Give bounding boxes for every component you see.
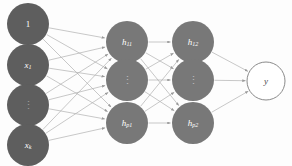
node-input-dots[interactable]: ⋮ [7,84,49,126]
node-hidden1-hp1[interactable]: hp1 [106,102,148,144]
node-hidden2-hp2[interactable]: hp2 [172,102,214,144]
neural-network-canvas: 1x1⋮xkh11⋮hp1h12⋮hp2y [0,0,292,166]
node-circle-hidden1-h11 [106,21,148,63]
node-circle-input-dots [7,84,49,126]
node-circle-output-y [247,62,285,100]
neural-network-diagram: 1x1⋮xkh11⋮hp1h12⋮hp2y [0,0,292,166]
connection-edge [146,53,174,69]
node-hidden2-h12[interactable]: h12 [172,21,214,63]
node-input-bias[interactable]: 1 [7,3,49,45]
node-input-x1[interactable]: x1 [7,44,49,86]
node-circle-input-x1 [7,44,49,86]
node-circle-input-xk [7,124,49,166]
node-hidden2-dots[interactable]: ⋮ [172,59,214,101]
node-output-y[interactable]: y [247,62,285,100]
node-circle-hidden2-hp2 [172,102,214,144]
connection-edge [212,91,249,112]
network-nodes: 1x1⋮xkh11⋮hp1h12⋮hp2y [7,3,285,166]
node-circle-hidden2-dots [172,59,214,101]
connection-edge [146,53,174,69]
node-circle-hidden1-dots [106,59,148,101]
connection-edge [49,128,105,140]
connection-edge [49,68,104,76]
node-input-xk[interactable]: xk [7,124,49,166]
node-hidden1-dots[interactable]: ⋮ [106,59,148,101]
node-circle-hidden1-hp1 [106,102,148,144]
node-hidden1-h11[interactable]: h11 [106,21,148,63]
connection-edge [46,92,108,133]
node-circle-input-bias [7,3,49,45]
connection-edge [49,28,105,38]
node-circle-hidden2-h12 [172,21,214,63]
connection-edge [46,54,108,93]
connection-edge [212,52,248,71]
